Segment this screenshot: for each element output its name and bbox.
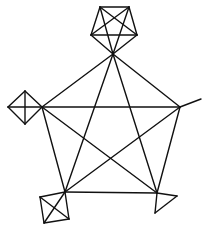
edge-hub_br-br_right bbox=[157, 193, 177, 196]
edge-top_k5_a-hub_top bbox=[100, 7, 113, 54]
edge-left_bottom-hub_left bbox=[25, 107, 42, 124]
edge-hub_right-right_pendant bbox=[180, 99, 201, 107]
edge-left_left-left_bottom bbox=[8, 107, 25, 124]
edge-br_right-br_bottom bbox=[155, 196, 177, 213]
edge-hub_bl-bl_tl bbox=[40, 192, 65, 197]
edge-top_k5_b-top_k5_c bbox=[129, 7, 137, 35]
edge-hub_left-hub_bl bbox=[42, 107, 65, 192]
edge-left_top-hub_left bbox=[25, 91, 42, 107]
edge-hub_top-hub_right bbox=[113, 54, 180, 107]
edge-hub_top-hub_br bbox=[113, 54, 157, 193]
graph-edges bbox=[8, 7, 201, 223]
edge-bl_tl-bl_bl bbox=[40, 197, 44, 223]
edge-hub_left-hub_br bbox=[42, 107, 157, 193]
edge-top_k5_a-top_k5_d bbox=[91, 7, 100, 35]
edge-hub_top-hub_bl bbox=[65, 54, 113, 192]
edge-hub_bl-bl_br bbox=[65, 192, 69, 219]
edge-bl_br-bl_bl bbox=[44, 219, 69, 223]
edge-hub_br-br_bottom bbox=[155, 193, 157, 213]
edge-hub_bl-hub_br bbox=[65, 192, 157, 193]
edge-hub_right-hub_br bbox=[157, 107, 180, 193]
edge-hub_right-hub_bl bbox=[65, 107, 180, 192]
edge-top_k5_a-top_k5_c bbox=[100, 7, 137, 35]
edge-hub_top-hub_left bbox=[42, 54, 113, 107]
edge-top_k5_b-top_k5_d bbox=[91, 7, 129, 35]
edge-bl_tl-bl_br bbox=[40, 197, 69, 219]
edge-left_top-left_left bbox=[8, 91, 25, 107]
graph-diagram bbox=[0, 0, 203, 228]
